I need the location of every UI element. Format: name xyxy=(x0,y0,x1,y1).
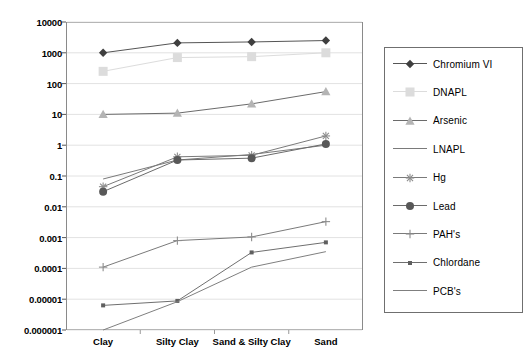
legend-marker-triangle xyxy=(403,114,417,128)
legend-item-chromium-vi[interactable]: Chromium VI xyxy=(391,54,519,74)
legend-item-label: Chromium VI xyxy=(429,59,492,70)
legend-key-swatch xyxy=(391,57,429,71)
data-point-marker-asterisk xyxy=(322,132,330,140)
legend-marker-none xyxy=(403,284,417,298)
data-point-marker-circle xyxy=(322,140,330,148)
data-point-marker-square xyxy=(247,52,256,61)
legend-key-swatch xyxy=(391,256,429,270)
legend-marker-asterisk xyxy=(403,171,417,185)
series-line xyxy=(103,136,326,187)
data-point-marker-diamond xyxy=(406,60,414,68)
series-line xyxy=(103,92,326,115)
series-line xyxy=(103,252,326,330)
series-lead xyxy=(99,140,330,196)
legend-key-swatch xyxy=(391,284,429,298)
legend-item-label: DNAPL xyxy=(429,87,467,98)
legend-item-dnapl[interactable]: DNAPL xyxy=(391,82,519,102)
chart-plot-panel: 1000010001001010.10.010.0010.00010.00001… xyxy=(0,0,375,361)
legend-marker-circle xyxy=(403,199,417,213)
data-point-marker-triangle xyxy=(405,116,414,124)
legend-key-swatch xyxy=(391,227,429,241)
data-point-marker-diamond xyxy=(247,38,255,46)
series-line xyxy=(103,144,326,192)
legend-marker-plus xyxy=(403,227,417,241)
series-line xyxy=(103,53,326,72)
chart-figure: 1000010001001010.10.010.0010.00010.00001… xyxy=(0,0,530,361)
data-point-marker-triangle xyxy=(321,87,330,95)
data-point-marker-circle xyxy=(173,156,181,164)
legend-item-pcb-s[interactable]: PCB's xyxy=(391,281,519,301)
legend-key-swatch xyxy=(391,199,429,213)
series-arsenic xyxy=(99,87,331,118)
data-point-marker-asterisk xyxy=(406,173,414,181)
data-point-marker-diamond xyxy=(173,39,181,47)
data-point-marker-plus xyxy=(99,263,107,271)
series-chlordane xyxy=(101,240,328,307)
data-point-marker-circle xyxy=(99,188,107,196)
legend-item-label: Hg xyxy=(429,172,446,183)
legend: Chromium VIDNAPLArsenicLNAPLHgLeadPAH'sC… xyxy=(384,47,523,313)
data-point-marker-plus xyxy=(322,217,330,225)
legend-key-swatch xyxy=(391,85,429,99)
data-point-marker-square xyxy=(99,67,108,76)
legend-item-label: Chlordane xyxy=(429,257,480,268)
data-point-marker-circle xyxy=(248,154,256,162)
legend-marker-none xyxy=(403,142,417,156)
legend-item-arsenic[interactable]: Arsenic xyxy=(391,111,519,131)
series-line xyxy=(103,242,326,305)
legend-key-swatch xyxy=(391,142,429,156)
legend-item-pah-s[interactable]: PAH's xyxy=(391,224,519,244)
data-point-marker-circle xyxy=(406,202,414,210)
legend-item-label: LNAPL xyxy=(429,144,465,155)
series-hg xyxy=(99,132,330,191)
data-point-marker-smallsquare xyxy=(408,261,412,265)
legend-item-label: PAH's xyxy=(429,229,460,240)
data-point-marker-smallsquare xyxy=(324,240,328,244)
data-point-marker-diamond xyxy=(322,36,330,44)
legend-key-swatch xyxy=(391,114,429,128)
data-point-marker-smallsquare xyxy=(101,303,105,307)
series-line xyxy=(103,222,326,267)
data-point-marker-plus xyxy=(247,233,255,241)
data-point-marker-square xyxy=(321,48,330,57)
series-line xyxy=(103,41,326,53)
data-point-marker-smallsquare xyxy=(250,250,254,254)
legend-item-label: PCB's xyxy=(429,286,461,297)
legend-item-lnapl[interactable]: LNAPL xyxy=(391,139,519,159)
series-pah-s xyxy=(99,217,330,271)
legend-item-hg[interactable]: Hg xyxy=(391,168,519,188)
data-point-marker-diamond xyxy=(99,49,107,57)
legend-marker-smallsquare xyxy=(403,256,417,270)
data-point-marker-plus xyxy=(406,230,414,238)
data-point-marker-square xyxy=(173,53,182,62)
legend-item-chlordane[interactable]: Chlordane xyxy=(391,253,519,273)
legend-item-label: Arsenic xyxy=(429,115,467,126)
legend-marker-square xyxy=(403,85,417,99)
legend-marker-diamond xyxy=(403,57,417,71)
legend-item-lead[interactable]: Lead xyxy=(391,196,519,216)
legend-key-swatch xyxy=(391,171,429,185)
legend-item-label: Lead xyxy=(429,201,456,212)
data-point-marker-square xyxy=(406,88,415,97)
series-pcb-s xyxy=(103,252,326,330)
